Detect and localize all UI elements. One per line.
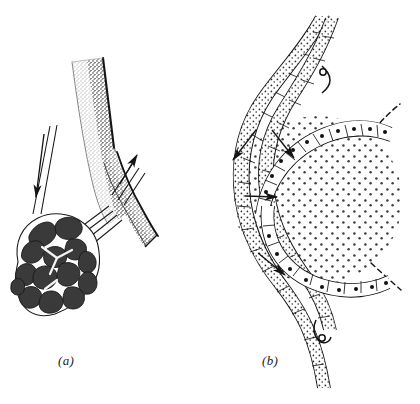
panel-a-caption: (a) — [58, 353, 74, 369]
figure-root: (a) (b) — [0, 0, 420, 404]
figure-canvas — [0, 0, 420, 404]
glomus-cluster — [11, 214, 100, 316]
panel-a — [11, 58, 158, 316]
apex-junction-top — [320, 66, 330, 93]
panel-b — [233, 16, 402, 388]
panel-b-caption: (b) — [262, 353, 278, 369]
